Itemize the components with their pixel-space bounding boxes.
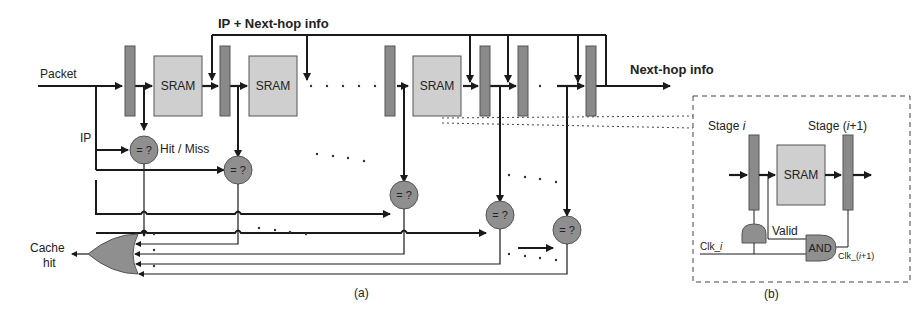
- ip-label: IP: [80, 131, 91, 145]
- stage-i1-label: Stage (i+1): [808, 119, 867, 133]
- register-4: [480, 46, 490, 116]
- svg-text:= ?: = ?: [396, 189, 412, 201]
- feedback-label: IP + Next-hop info: [218, 16, 329, 31]
- pipelined-cache-diagram: IP + Next-hop info Packet Next-hop info …: [0, 0, 916, 313]
- sram-label-3: SRAM: [420, 79, 455, 93]
- svg-text:= ?: = ?: [230, 164, 246, 176]
- inset-register-i: [749, 135, 759, 210]
- cache-hit-label-2: hit: [43, 256, 56, 270]
- svg-text:= ?: = ?: [492, 209, 508, 221]
- valid-label: Valid: [772, 224, 798, 238]
- or-gate: [88, 234, 138, 274]
- hit-miss-label: Hit / Miss: [160, 142, 209, 156]
- next-hop-output-label: Next-hop info: [630, 62, 714, 77]
- register-6: [586, 46, 596, 116]
- clk-i1-label: Clk_(i+1): [838, 251, 874, 261]
- clk-i-label: Clk_i: [700, 241, 723, 252]
- sram-label-1: SRAM: [161, 79, 196, 93]
- packet-label: Packet: [40, 67, 77, 81]
- svg-text:= ?: = ?: [136, 144, 152, 156]
- caption-b: (b): [764, 287, 779, 301]
- caption-a: (a): [354, 286, 369, 300]
- inset-stage: SRAM: [749, 135, 853, 210]
- diagram-svg: IP + Next-hop info Packet Next-hop info …: [0, 0, 916, 313]
- cache-hit-label-1: Cache: [30, 241, 65, 255]
- register-1: [125, 46, 135, 116]
- register-3: [385, 46, 395, 116]
- sram-label-2: SRAM: [256, 79, 291, 93]
- inset-sram-label: SRAM: [784, 168, 819, 182]
- and-gate-label: AND: [808, 242, 831, 254]
- register-5: [518, 46, 528, 116]
- inset-valid-gate: [742, 210, 766, 254]
- svg-text:= ?: = ?: [559, 224, 575, 236]
- stage-i-label: Stage i: [708, 119, 746, 133]
- inset-register-i1: [843, 135, 853, 210]
- register-2: [220, 46, 230, 116]
